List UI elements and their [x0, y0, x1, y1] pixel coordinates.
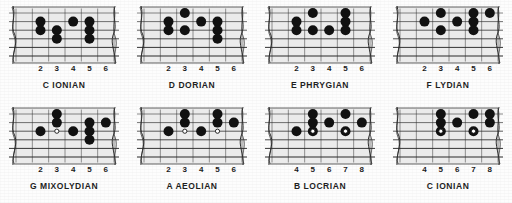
note-dot [469, 17, 479, 27]
note-dot [292, 25, 302, 35]
note-dot [469, 8, 479, 18]
fretboard-svg [262, 4, 378, 66]
diagram-caption: F LYDIAN [384, 80, 512, 90]
note-dot [213, 17, 223, 27]
fret-number: 2 [294, 64, 298, 74]
diagram-caption: A AEOLIAN [128, 181, 256, 191]
fret-number: 4 [71, 64, 75, 74]
note-dot [292, 126, 302, 136]
fretboard-svg [6, 4, 122, 66]
fret-number: 6 [488, 64, 492, 74]
note-dot [436, 8, 446, 18]
open-note-dot [215, 129, 219, 133]
note-dot [52, 34, 62, 44]
note-dot [36, 126, 46, 136]
note-dot [85, 25, 95, 35]
note-dot [164, 25, 174, 35]
note-dot [324, 25, 334, 35]
fretboard-diagram-g-mixolydian: 23456G MIXOLYDIAN [0, 101, 128, 202]
note-dot [180, 109, 190, 119]
fretboard-svg [6, 105, 122, 167]
open-note-dot [343, 129, 347, 133]
fret-number: 6 [104, 64, 108, 74]
fret-number: 3 [183, 64, 187, 74]
note-dot [36, 17, 46, 27]
note-dot [436, 25, 446, 35]
note-dot [52, 25, 62, 35]
neck-body [396, 7, 500, 63]
fret-number: 2 [166, 64, 170, 74]
fret-number: 6 [232, 64, 236, 74]
note-dot [85, 126, 95, 136]
note-dot [85, 135, 95, 145]
neck-body [140, 108, 244, 164]
fretboard-svg [134, 4, 250, 66]
fret-number: 3 [183, 165, 187, 175]
note-dot [229, 118, 239, 128]
fretboard-graphic [262, 4, 378, 66]
open-note-dot [471, 129, 475, 133]
fretboard-diagram-f-lydian: 23456F LYDIAN [384, 0, 512, 101]
neck-body [12, 7, 116, 63]
fret-number: 2 [38, 165, 42, 175]
fret-number-row: 23456 [390, 64, 506, 76]
fretboard-graphic [262, 105, 378, 167]
note-dot [180, 118, 190, 128]
fret-number: 5 [439, 165, 443, 175]
fret-number: 6 [104, 165, 108, 175]
neck-body [396, 108, 500, 164]
fret-number-row: 23456 [262, 64, 378, 76]
note-dot [85, 118, 95, 128]
fretboard-svg [262, 105, 378, 167]
note-dot [180, 25, 190, 35]
modes-diagram-sheet: 23456C IONIAN23456D DORIAN23456E PHRYGIA… [0, 0, 512, 203]
fretboard-svg [390, 105, 506, 167]
fretboard-diagram-a-aeolian: 23456A AEOLIAN [128, 101, 256, 202]
note-dot [85, 34, 95, 44]
neck-body [268, 7, 372, 63]
note-dot [164, 126, 174, 136]
note-dot [213, 34, 223, 44]
note-dot [357, 118, 367, 128]
note-dot [52, 118, 62, 128]
diagram-caption: G MIXOLYDIAN [0, 181, 128, 191]
fret-number: 3 [55, 64, 59, 74]
fret-number: 4 [71, 165, 75, 175]
fret-number: 5 [87, 64, 91, 74]
fret-number: 4 [327, 64, 331, 74]
diagram-caption: D DORIAN [128, 80, 256, 90]
fret-number-row: 23456 [134, 64, 250, 76]
note-dot [68, 126, 78, 136]
fretboard-svg [390, 4, 506, 66]
open-note-dot [183, 129, 187, 133]
fret-number: 5 [343, 64, 347, 74]
note-dot [196, 126, 206, 136]
note-dot [213, 118, 223, 128]
fret-number: 3 [55, 165, 59, 175]
fret-number: 3 [439, 64, 443, 74]
fret-number: 5 [215, 165, 219, 175]
fret-number-row: 23456 [6, 64, 122, 76]
diagram-caption: C IONIAN [0, 80, 128, 90]
open-note-dot [439, 129, 443, 133]
fret-number-row: 45678 [390, 165, 506, 177]
fret-number: 4 [455, 64, 459, 74]
fretboard-diagram-b-locrian: 45678B LOCRIAN [256, 101, 384, 202]
fret-number-row: 45678 [262, 165, 378, 177]
note-dot [341, 25, 351, 35]
diagram-caption: B LOCRIAN [256, 181, 384, 191]
note-dot [452, 118, 462, 128]
fret-number-row: 23456 [6, 165, 122, 177]
fret-number: 4 [199, 165, 203, 175]
note-dot [196, 17, 206, 27]
open-note-dot [311, 129, 315, 133]
fret-number: 4 [294, 165, 298, 175]
note-dot [180, 8, 190, 18]
note-dot [52, 109, 62, 119]
note-dot [292, 17, 302, 27]
fret-number: 6 [360, 64, 364, 74]
fretboard-svg [134, 105, 250, 167]
diagram-caption: E PHRYGIAN [256, 80, 384, 90]
note-dot [36, 25, 46, 35]
fret-number: 6 [327, 165, 331, 175]
